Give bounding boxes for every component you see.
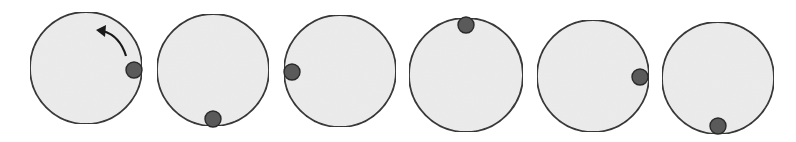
ball-bottom [710,118,726,134]
wheel-circle [284,15,396,127]
frames-group [30,12,774,134]
frame-3 [284,15,396,127]
frame-5 [537,20,649,132]
wheel-circle [30,12,142,124]
wheel-circle [662,22,774,134]
rotation-diagram [0,0,796,142]
wheel-circle [157,14,269,126]
ball-left [284,64,300,80]
ball-right [126,62,142,78]
frame-1 [30,12,142,124]
ball-bottom [205,111,221,127]
ball-top [458,17,474,33]
frame-2 [157,14,269,127]
frame-4 [409,17,523,132]
frame-6 [662,22,774,134]
wheel-circle [409,18,523,132]
ball-right [632,69,648,85]
